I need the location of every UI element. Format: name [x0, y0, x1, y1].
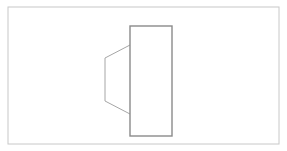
drawing-border: [8, 7, 279, 144]
technical-drawing: [0, 0, 287, 151]
drawing-canvas: [0, 0, 287, 151]
